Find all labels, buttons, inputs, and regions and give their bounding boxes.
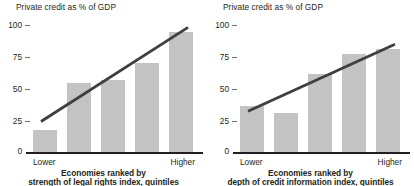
plot-area-credit-information: 100 75 50 25 0 <box>207 18 414 155</box>
panel-legal-rights: Private credit as % of GDP 100 75 50 25 … <box>0 0 207 186</box>
x-label-higher: Higher <box>171 157 195 167</box>
panel-axis-title: Private credit as % of GDP <box>223 2 323 12</box>
x-label-lower: Lower <box>240 157 263 167</box>
x-label-lower: Lower <box>33 157 56 167</box>
two-panel-bar-chart-figure: Private credit as % of GDP 100 75 50 25 … <box>0 0 414 186</box>
panel-credit-information: Private credit as % of GDP 100 75 50 25 … <box>207 0 414 186</box>
panel-caption-line-2: strength of legal rights index, quintile… <box>0 177 207 186</box>
x-axis-baseline <box>233 152 410 154</box>
panel-caption-line-2: depth of credit information index, quint… <box>207 177 414 186</box>
panel-axis-title: Private credit as % of GDP <box>16 2 116 12</box>
trend-line <box>0 18 207 155</box>
trend-line <box>207 18 414 155</box>
plot-area-legal-rights: 100 75 50 25 0 <box>0 18 207 155</box>
x-label-higher: Higher <box>378 157 402 167</box>
x-axis-baseline <box>26 152 203 154</box>
